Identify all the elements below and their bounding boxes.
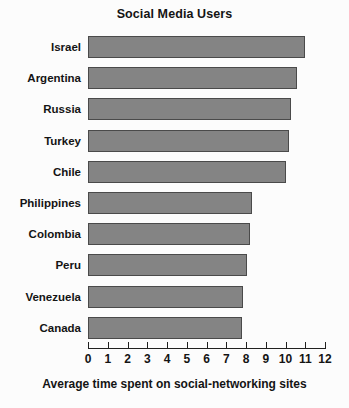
plot-area: IsraelArgentinaRussiaTurkeyChilePhilippi… (88, 36, 325, 348)
bar-israel (88, 36, 305, 58)
category-label-israel: Israel (51, 36, 81, 58)
bar-chile (88, 161, 286, 183)
x-tick-8 (246, 342, 247, 348)
bar-russia (88, 98, 291, 120)
bar-colombia (88, 223, 250, 245)
bar-row: Israel (88, 36, 325, 58)
category-label-turkey: Turkey (44, 130, 81, 152)
bar-row: Philippines (88, 192, 325, 214)
bar-row: Argentina (88, 67, 325, 89)
category-label-colombia: Colombia (29, 223, 81, 245)
x-tick-12 (325, 342, 326, 348)
x-tick-11 (305, 342, 306, 348)
chart-title: Social Media Users (0, 7, 349, 21)
bar-row: Chile (88, 161, 325, 183)
x-tick-1 (108, 342, 109, 348)
category-label-canada: Canada (39, 317, 81, 339)
bar-row: Russia (88, 98, 325, 120)
bar-peru (88, 254, 247, 276)
bar-turkey (88, 130, 289, 152)
category-label-argentina: Argentina (27, 67, 81, 89)
bar-chart: Social Media Users IsraelArgentinaRussia… (0, 0, 349, 408)
x-tick-2 (128, 342, 129, 348)
category-label-venezuela: Venezuela (25, 286, 81, 308)
bar-venezuela (88, 286, 243, 308)
x-tick-7 (226, 342, 227, 348)
x-axis-label: Average time spent on social-networking … (0, 377, 349, 391)
category-label-philippines: Philippines (20, 192, 81, 214)
bar-canada (88, 317, 242, 339)
x-tick-9 (266, 342, 267, 348)
bar-row: Turkey (88, 130, 325, 152)
x-tick-0 (88, 342, 89, 348)
bar-row: Venezuela (88, 286, 325, 308)
bar-philippines (88, 192, 252, 214)
x-tick-10 (286, 342, 287, 348)
x-tick-3 (147, 342, 148, 348)
x-tick-5 (187, 342, 188, 348)
x-tick-label-12: 12 (313, 352, 337, 366)
x-tick-6 (207, 342, 208, 348)
category-label-chile: Chile (53, 161, 81, 183)
bar-row: Colombia (88, 223, 325, 245)
bar-argentina (88, 67, 297, 89)
x-tick-4 (167, 342, 168, 348)
category-label-peru: Peru (55, 254, 81, 276)
bar-row: Canada (88, 317, 325, 339)
x-axis-line (88, 348, 326, 349)
category-label-russia: Russia (43, 98, 81, 120)
bar-row: Peru (88, 254, 325, 276)
